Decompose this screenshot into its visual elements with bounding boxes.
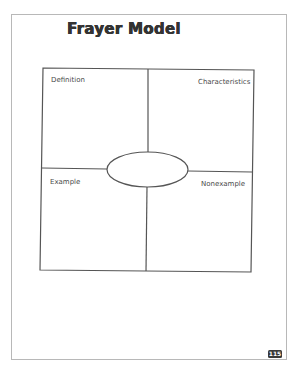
- center-oval[interactable]: [107, 152, 188, 187]
- frayer-diagram: [0, 0, 295, 368]
- horizontal-divider-left: [42, 168, 107, 169]
- quadrant-label-definition: Definition: [51, 76, 85, 84]
- page-number-badge: 115: [268, 350, 282, 358]
- vertical-divider-bottom: [146, 187, 147, 271]
- quadrant-label-nonexample: Nonexample: [201, 180, 245, 188]
- quadrant-label-characteristics: Characteristics: [198, 78, 250, 86]
- quadrant-label-example: Example: [50, 178, 80, 186]
- horizontal-divider-right: [188, 171, 252, 172]
